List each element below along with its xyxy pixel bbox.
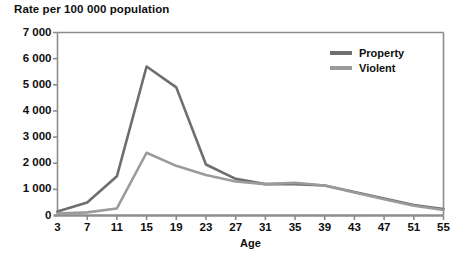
x-tick-label: 15 [132,221,162,233]
x-tick-label: 3 [43,221,73,233]
chart-figure: Rate per 100 000 population 01 0002 0003… [0,0,458,256]
chart-legend: PropertyViolent [330,45,404,75]
x-tick-label: 27 [221,221,251,233]
y-tick-label: 0 [2,209,52,221]
y-tick-label: 7 000 [2,26,52,38]
x-axis-title: Age [221,237,281,249]
legend-swatch-icon [330,51,352,55]
y-tick-label: 3 000 [2,130,52,142]
legend-item: Property [330,45,404,60]
y-tick-label: 5 000 [2,78,52,90]
x-tick-label: 31 [250,221,280,233]
x-tick-label: 51 [399,221,429,233]
x-tick-label: 19 [161,221,191,233]
legend-label: Violent [359,62,395,74]
series-line-violent [58,153,444,214]
x-tick-label: 55 [429,221,458,233]
series-line-property [58,66,444,211]
x-tick-label: 23 [191,221,221,233]
legend-swatch-icon [330,66,352,70]
x-tick-label: 7 [72,221,102,233]
x-tick-label: 47 [369,221,399,233]
plot-area [0,0,458,256]
y-tick-label: 4 000 [2,104,52,116]
x-tick-label: 43 [339,221,369,233]
x-tick-label: 35 [280,221,310,233]
x-tick-label: 11 [102,221,132,233]
x-tick-label: 39 [310,221,340,233]
y-tick-label: 6 000 [2,52,52,64]
y-tick-label: 1 000 [2,182,52,194]
y-tick-label: 2 000 [2,156,52,168]
legend-label: Property [359,47,404,59]
legend-item: Violent [330,60,404,75]
